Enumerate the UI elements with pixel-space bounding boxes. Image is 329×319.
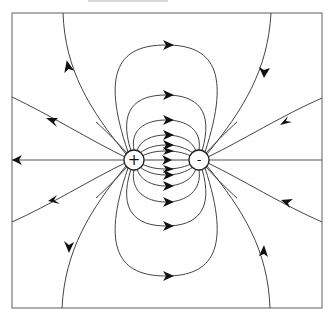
minus-sign-icon: - xyxy=(197,152,202,167)
plus-sign-icon: + xyxy=(128,151,141,169)
dipole-field-diagram: + - xyxy=(0,0,329,319)
upper-inner-loops xyxy=(115,40,217,156)
negative-charge: - xyxy=(189,150,209,170)
axis-field-lines xyxy=(12,155,322,165)
lower-inner-loops xyxy=(115,164,217,281)
positive-charge: + xyxy=(124,150,144,170)
cropped-caption-remnant xyxy=(88,0,168,2)
